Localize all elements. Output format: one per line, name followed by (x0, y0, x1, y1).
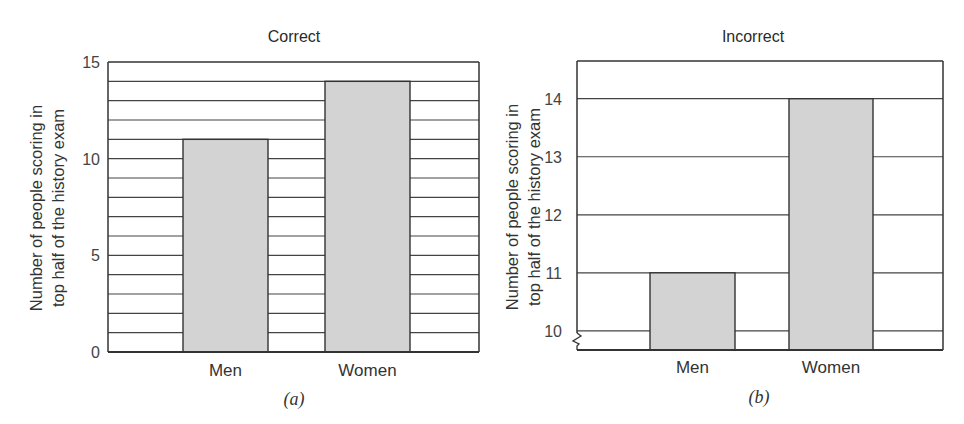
chart-title: Incorrect (722, 28, 785, 45)
y-tick-label: 0 (91, 344, 100, 361)
y-tick-label: 15 (82, 54, 100, 71)
y-tick-label: 11 (545, 265, 562, 282)
chart-title: Correct (268, 28, 321, 45)
bar-women (325, 81, 410, 352)
y-tick-label: 10 (82, 151, 100, 168)
y-axis-label: top half of the history exam (49, 109, 67, 307)
y-tick-label: 13 (544, 149, 562, 166)
y-tick-label: 5 (91, 247, 100, 264)
y-tick-label: 10 (544, 323, 562, 340)
category-label: Women (338, 361, 396, 380)
category-label: Men (676, 358, 709, 377)
figure-pair: CorrectMenWomen051015Number of people sc… (0, 0, 964, 424)
chart-panel-a: CorrectMenWomen051015Number of people sc… (27, 28, 479, 410)
y-axis-label: top half of the history exam (525, 108, 543, 306)
y-axis-label: Number of people scoring in (27, 105, 45, 311)
y-tick-label: 12 (544, 207, 562, 224)
chart-panel-b: IncorrectMenWomen1011121314Number of peo… (503, 28, 943, 408)
panel-caption: (a) (284, 389, 305, 410)
bar-women (789, 99, 873, 350)
bar-men (650, 273, 735, 350)
y-axis-label: Number of people scoring in (503, 104, 521, 310)
bar-men (183, 139, 268, 352)
category-label: Women (802, 358, 860, 377)
category-label: Men (209, 361, 242, 380)
plot-area (577, 61, 943, 350)
plot-area (108, 62, 479, 352)
panel-caption: (b) (749, 387, 770, 408)
y-tick-label: 14 (544, 91, 562, 108)
